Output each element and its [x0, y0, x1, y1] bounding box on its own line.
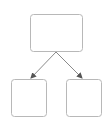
edges [31, 52, 82, 78]
edge-arrow-right-child [56, 52, 82, 78]
edge-arrow-left-child [31, 52, 56, 78]
tree-diagram [0, 0, 106, 122]
node-root[interactable] [31, 15, 83, 52]
node-left-child[interactable] [12, 80, 47, 117]
nodes [12, 15, 102, 117]
node-right-child[interactable] [67, 80, 102, 117]
